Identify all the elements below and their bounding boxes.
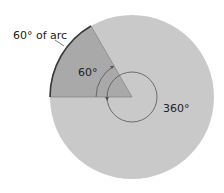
arc-label: 60° of arc bbox=[13, 29, 67, 42]
full-angle-label: 360° bbox=[163, 102, 190, 115]
circle-diagram: 60° of arc 60° 360° bbox=[0, 0, 224, 193]
sector-angle-label: 60° bbox=[78, 66, 98, 79]
